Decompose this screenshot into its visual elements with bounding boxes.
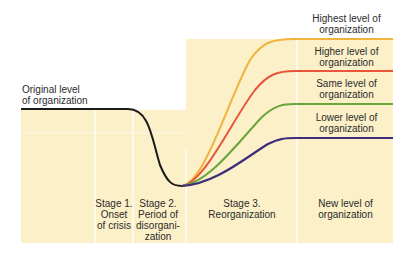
original-level-label-line1: Original level <box>22 84 88 95</box>
outcome-label-higher: Higher level of organization <box>300 46 393 68</box>
stage-2-line4: zation <box>133 231 183 242</box>
new-level-line2: organization <box>298 209 393 220</box>
stage-label-new-level: New level of organization <box>298 198 393 220</box>
original-level-label-line2: of organization <box>22 95 88 106</box>
stage-label-2: Stage 2. Period of disorgani- zation <box>133 198 183 242</box>
outcome-label-same-line2: organization <box>300 89 393 100</box>
outcome-label-highest: Highest level of organization <box>300 13 393 35</box>
stage-1-line2: Onset <box>92 209 136 220</box>
stage-label-1: Stage 1. Onset of crisis <box>92 198 136 231</box>
outcome-label-higher-line1: Higher level of <box>300 46 393 57</box>
outcome-label-same-line1: Same level of <box>300 78 393 89</box>
outcome-label-higher-line2: organization <box>300 57 393 68</box>
outcome-label-same: Same level of organization <box>300 78 393 100</box>
stage-label-3: Stage 3. Reorganization <box>190 198 294 220</box>
stage-1-line1: Stage 1. <box>92 198 136 209</box>
outcome-label-highest-line1: Highest level of <box>300 13 393 24</box>
stage-3-line1: Stage 3. <box>190 198 294 209</box>
outcome-label-lower-line1: Lower level of <box>300 112 393 123</box>
original-level-label: Original level of organization <box>22 84 88 106</box>
stage-2-line2: Period of <box>133 209 183 220</box>
outcome-label-lower: Lower level of organization <box>300 112 393 134</box>
stage-2-line1: Stage 2. <box>133 198 183 209</box>
new-level-line1: New level of <box>298 198 393 209</box>
outcome-label-highest-line2: organization <box>300 24 393 35</box>
stage-1-line3: of crisis <box>92 220 136 231</box>
crisis-diagram: Original level of organization Highest l… <box>0 0 411 266</box>
stage-3-line2: Reorganization <box>190 209 294 220</box>
stage-2-line3: disorgani- <box>133 220 183 231</box>
outcome-label-lower-line2: organization <box>300 123 393 134</box>
